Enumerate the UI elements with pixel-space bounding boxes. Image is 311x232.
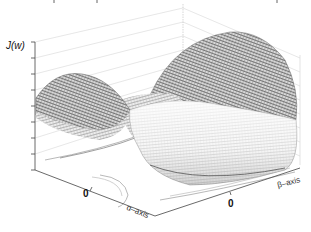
alpha-axis-zero-tick-label: 0 <box>83 188 89 199</box>
z-axis <box>31 42 35 170</box>
top-edge-ticks <box>54 0 277 3</box>
beta-axis-tick <box>230 192 231 195</box>
z-axis-label: J(w) <box>6 40 25 51</box>
beta-axis-zero-tick-label: 0 <box>228 198 234 209</box>
surface-plot <box>0 0 311 232</box>
alpha-axis-tick <box>90 187 92 191</box>
